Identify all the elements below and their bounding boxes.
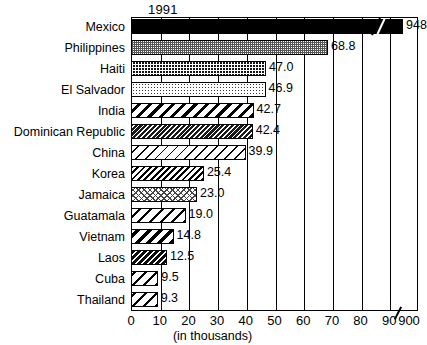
bar-china [131,145,246,160]
category-label-dominican-republic: Dominican Republic [14,126,125,139]
bar-value-philippines: 68.8 [331,40,355,53]
bar-guatamala [131,208,186,223]
xtick-0: 0 [127,313,134,328]
bar-value-india: 42.7 [257,103,281,116]
bar-value-mexico: 948 [406,19,427,32]
bar-value-el-salvador: 46.9 [269,82,293,95]
category-label-thailand: Thailand [77,294,125,307]
bar-jamaica [131,187,197,202]
xtick-50: 50 [267,313,281,328]
bar-haiti [131,61,266,76]
category-label-el-salvador: El Salvador [61,84,125,97]
bar-value-haiti: 47.0 [269,61,293,74]
category-label-china: China [92,147,125,160]
xtick-60: 60 [296,313,310,328]
bar-korea [131,166,204,181]
xtick-80: 80 [353,313,367,328]
bar-value-guatamala: 19.0 [189,208,213,221]
category-label-korea: Korea [92,168,125,181]
xtick-70: 70 [325,313,339,328]
value-axis-caption: (in thousands) [0,329,425,343]
category-label-haiti: Haiti [100,63,125,76]
bar-value-laos: 12.5 [170,250,194,263]
bar-value-china: 39.9 [249,145,273,158]
bar-philippines [131,40,328,55]
bar-el-salvador [131,82,266,97]
bar-laos [131,250,167,265]
bar-value-korea: 25.4 [207,166,231,179]
xtick-30: 30 [210,313,224,328]
bar-value-thailand: 9.3 [161,292,178,305]
bar-value-jamaica: 23.0 [200,187,224,200]
bar-vietnam [131,229,174,244]
bar-mexico [131,19,403,34]
xtick-40: 40 [239,313,253,328]
bar-india [131,103,254,118]
bar-cuba [131,271,158,286]
category-label-mexico: Mexico [85,21,125,34]
category-axis-labels: Mexico Philippines Haiti El Salvador Ind… [0,17,128,311]
chart-title: 1991 [148,2,178,17]
bar-dominican-republic [131,124,253,139]
bar-value-vietnam: 14.8 [177,229,201,242]
category-label-laos: Laos [98,252,125,265]
xtick-20: 20 [181,313,195,328]
xtick-10: 10 [152,313,166,328]
bars-layer: 948 68.8 47.0 46.9 42.7 42.4 39.9 25.4 2… [131,17,418,311]
bar-value-cuba: 9.5 [161,271,178,284]
bar-value-dominican-republic: 42.4 [256,124,280,137]
category-label-jamaica: Jamaica [78,189,125,202]
bar-thailand [131,292,158,307]
category-label-guatamala: Guatamala [64,210,125,223]
category-label-cuba: Cuba [95,273,125,286]
xtick-900: 900 [398,313,420,328]
category-label-vietnam: Vietnam [79,231,125,244]
category-label-philippines: Philippines [65,42,125,55]
category-label-india: India [98,105,125,118]
